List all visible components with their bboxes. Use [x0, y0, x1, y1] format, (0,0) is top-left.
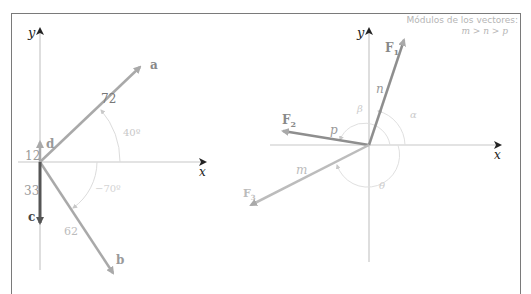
vector-a-angle: 40º	[123, 127, 141, 138]
magnitudes-note: Módulos de los vectores: m > n > p	[400, 15, 518, 36]
angle-theta-label: θ	[379, 180, 385, 191]
angle-arc-a	[101, 110, 120, 162]
vector-d-magnitude: 12	[25, 149, 40, 163]
vector-F2-label: F2	[282, 113, 296, 129]
vector-F2-magnitude: p	[330, 123, 338, 137]
angle-arc-theta	[337, 145, 400, 187]
note-relation: m > n > p	[400, 26, 518, 36]
right-y-label: y	[356, 25, 365, 40]
right-x-label: x	[494, 148, 501, 162]
vector-diagrams: y x a 72 40º b 62 −70º c 33 d 12 y x F1 …	[0, 0, 531, 294]
angle-arc-alpha	[378, 111, 405, 145]
vector-b-magnitude: 62	[64, 225, 78, 238]
vector-F3-label: F3	[243, 187, 256, 202]
vector-F2	[283, 131, 369, 145]
vector-a-magnitude: 72	[101, 92, 116, 106]
vector-a	[40, 67, 140, 162]
angle-beta-label: β	[356, 103, 363, 114]
vector-c-label: c	[28, 210, 35, 224]
vector-d-label: d	[46, 137, 55, 151]
note-title: Módulos de los vectores:	[400, 15, 518, 25]
vector-c-magnitude: 33	[24, 184, 39, 198]
vector-F1-label: F1	[385, 41, 399, 57]
vector-b-label: b	[116, 253, 124, 267]
vector-b-angle: −70º	[95, 183, 121, 194]
left-y-label: y	[27, 25, 36, 40]
vector-a-label: a	[150, 58, 158, 72]
vector-F3-magnitude: m	[296, 163, 307, 177]
left-diagram: y x a 72 40º b 62 −70º c 33 d 12	[18, 25, 206, 273]
angle-arc-b	[73, 162, 97, 208]
vector-b	[40, 162, 113, 273]
left-x-label: x	[199, 165, 206, 179]
vector-F3	[251, 145, 369, 205]
angle-alpha-label: α	[410, 109, 417, 120]
vector-F1-magnitude: n	[376, 82, 384, 96]
right-diagram: y x F1 n α F2 p β F3 m θ	[243, 25, 501, 262]
